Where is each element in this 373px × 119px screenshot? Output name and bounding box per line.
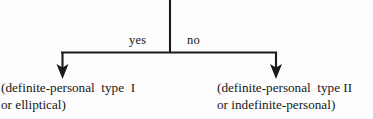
outcome-node-left: (definite-personal type I or elliptical) [1, 80, 135, 113]
branch-label-yes: yes [129, 34, 146, 47]
decision-flowchart: yes no (definite-personal type I or elli… [0, 0, 373, 119]
outcome-right-line-2: or indefinite-personal) [217, 97, 352, 114]
outcome-left-line-2: or elliptical) [1, 97, 135, 114]
outcome-node-right: (definite-personal type II or indefinite… [217, 80, 352, 113]
outcome-left-line-1: (definite-personal type I [1, 80, 135, 97]
branch-label-no: no [187, 34, 200, 47]
outcome-right-line-1: (definite-personal type II [217, 80, 352, 97]
